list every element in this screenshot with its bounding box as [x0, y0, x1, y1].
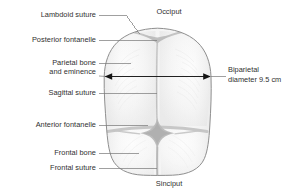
label-parietal-eminence: and eminence — [0, 68, 96, 77]
label-posterior-fontanelle: Posterior fontanelle — [0, 36, 96, 45]
leader-lambdoid-suture — [99, 16, 140, 34]
label-sinciput: Sinciput — [138, 180, 200, 189]
label-anterior-fontanelle: Anterior fontanelle — [0, 121, 96, 130]
label-occiput: Occiput — [138, 8, 200, 17]
label-sagittal-suture: Sagittal suture — [0, 89, 96, 98]
skull-body — [100, 25, 215, 180]
label-frontal-suture: Frontal suture — [0, 164, 96, 173]
label-lambdoid-suture: Lambdoid suture — [0, 11, 96, 20]
label-frontal-bone: Frontal bone — [0, 149, 96, 158]
fetal-skull-diagram: Lambdoid suture Posterior fontanelle Par… — [0, 0, 299, 193]
label-biparietal-diameter: Biparietal — [228, 66, 299, 75]
label-biparietal-diameter-value: diameter 9.5 cm — [228, 76, 299, 85]
label-parietal-bone: Parietal bone — [0, 59, 96, 68]
